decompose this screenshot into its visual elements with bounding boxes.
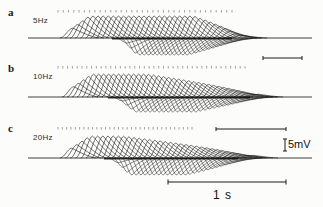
depolarizing-traces-a <box>60 16 267 38</box>
panel-group-c <box>28 127 312 175</box>
stimulus-marker-train-b <box>58 66 245 69</box>
electrophysiology-figure: a b c 5Hz 10Hz 20Hz 5mV 1 s <box>0 0 323 207</box>
depolarizing-traces-c <box>60 136 278 158</box>
depolarizing-trace <box>67 83 103 97</box>
depolarizing-trace <box>60 148 96 158</box>
hyperpolarizing-traces-c <box>108 158 265 175</box>
depolarizing-trace <box>107 136 143 158</box>
time-scale-label: 1 s <box>213 188 232 202</box>
voltage-scale-bar <box>283 139 287 151</box>
trace-canvas <box>0 0 323 207</box>
depolarizing-traces-b <box>62 74 283 97</box>
depolarizing-trace <box>62 87 98 97</box>
depolarizing-trace <box>117 137 153 158</box>
hyperpolarizing-traces-b <box>113 97 278 112</box>
stimulus-marker-train-a <box>58 10 232 13</box>
depolarizing-trace <box>112 136 148 158</box>
time-scale-bar <box>168 180 286 185</box>
stimulus-marker-train-c <box>58 127 192 130</box>
voltage-scale-label: 5mV <box>288 138 311 150</box>
panel-group-a <box>28 10 312 55</box>
panel-c-scale-bar <box>216 127 286 131</box>
panel-b-scale-bar <box>263 56 302 60</box>
panel-group-b <box>28 66 312 112</box>
hyperpolarizing-traces-a <box>116 38 261 55</box>
